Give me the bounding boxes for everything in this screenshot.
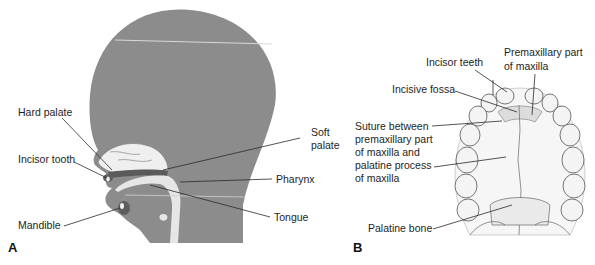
- label-suture-line4: palatine process: [355, 159, 431, 172]
- label-tongue: Tongue: [274, 211, 308, 224]
- diagram-canvas: [0, 0, 595, 265]
- label-incisive-fossa: Incisive fossa: [392, 83, 455, 96]
- panel-label-a: A: [8, 240, 17, 255]
- panel-label-b: B: [353, 240, 362, 255]
- label-soft-palate-line2: palate: [311, 139, 340, 152]
- label-suture-line1: Suture between: [355, 120, 429, 133]
- label-premaxillary-line1: Premaxillary part: [504, 46, 583, 59]
- label-pharynx: Pharynx: [276, 173, 315, 186]
- label-suture-line3: of maxilla and: [355, 146, 420, 159]
- label-mandible: Mandible: [18, 219, 61, 232]
- label-suture-line5: of maxilla: [355, 172, 399, 185]
- label-suture-line2: premaxillary part: [355, 133, 433, 146]
- label-palatine-bone: Palatine bone: [368, 222, 432, 235]
- label-hard-palate: Hard palate: [18, 106, 72, 119]
- head-silhouette: [89, 10, 275, 243]
- label-incisor-teeth: Incisor teeth: [426, 56, 483, 69]
- label-soft-palate-line1: Soft: [311, 126, 330, 139]
- label-premaxillary-line2: of maxilla: [504, 60, 548, 73]
- label-incisor-tooth: Incisor tooth: [18, 153, 75, 166]
